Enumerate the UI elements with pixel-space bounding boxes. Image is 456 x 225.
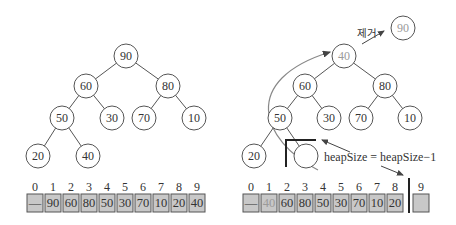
removed-node: 90 <box>391 16 415 40</box>
tree-node-empty <box>294 144 318 168</box>
svg-text:7: 7 <box>158 180 164 194</box>
array-cell: 90 <box>45 194 61 212</box>
right-heap-tree: 제거 90 40 60 80 50 30 70 10 20 <box>242 16 422 170</box>
svg-text:6: 6 <box>140 180 146 194</box>
right-heap-array: 0 1 2 3 4 5 6 7 8 9 — 40 60 80 50 30 70 … <box>243 178 429 213</box>
svg-text:9: 9 <box>418 180 424 194</box>
tree-node-root: 90 <box>114 44 138 68</box>
svg-text:30: 30 <box>119 196 132 210</box>
svg-text:20: 20 <box>389 196 402 210</box>
svg-text:2: 2 <box>284 180 290 194</box>
svg-text:60: 60 <box>281 196 294 210</box>
svg-text:8: 8 <box>176 180 182 194</box>
svg-text:80: 80 <box>299 196 312 210</box>
array-cell: — <box>243 194 259 212</box>
array-cell: 50 <box>99 194 115 212</box>
array-indices: 0 1 2 3 4 5 6 7 8 9 <box>32 180 200 194</box>
tree-node: 80 <box>373 74 397 98</box>
tree-node: 10 <box>182 106 206 130</box>
svg-text:1: 1 <box>50 180 56 194</box>
array-cell: 80 <box>81 194 97 212</box>
svg-text:40: 40 <box>191 196 204 210</box>
array-cell-removed <box>413 194 429 212</box>
tree-node: 30 <box>100 106 124 130</box>
left-heap-tree: 90 60 80 50 30 70 10 20 40 <box>26 44 206 168</box>
svg-text:—: — <box>244 196 258 210</box>
tree-node-root: 40 <box>332 44 356 68</box>
svg-text:3: 3 <box>86 180 92 194</box>
svg-text:90: 90 <box>397 21 409 35</box>
array-cell: — <box>27 194 43 212</box>
svg-text:10: 10 <box>371 196 384 210</box>
svg-text:1: 1 <box>266 180 272 194</box>
tree-node: 20 <box>26 144 50 168</box>
svg-text:40: 40 <box>82 149 94 163</box>
svg-text:6: 6 <box>356 180 362 194</box>
heapsize-annotation: heapSize = heapSize−1 <box>324 150 436 164</box>
svg-text:10: 10 <box>188 111 200 125</box>
tree-node: 70 <box>132 106 156 130</box>
tree-node: 40 <box>76 144 100 168</box>
svg-text:10: 10 <box>404 111 416 125</box>
svg-text:50: 50 <box>317 196 330 210</box>
svg-text:20: 20 <box>248 149 260 163</box>
svg-text:30: 30 <box>335 196 348 210</box>
svg-text:30: 30 <box>106 111 118 125</box>
svg-text:8: 8 <box>392 180 398 194</box>
svg-text:5: 5 <box>122 180 128 194</box>
svg-text:7: 7 <box>374 180 380 194</box>
svg-text:0: 0 <box>248 180 254 194</box>
svg-text:9: 9 <box>194 180 200 194</box>
tree-node: 70 <box>349 106 373 130</box>
array-cell: 20 <box>387 194 403 212</box>
svg-text:80: 80 <box>379 79 391 93</box>
svg-text:10: 10 <box>155 196 168 210</box>
tree-node: 30 <box>317 106 341 130</box>
annotation-arrow-to-divider <box>381 166 403 175</box>
array-cell: 10 <box>369 194 385 212</box>
svg-text:70: 70 <box>355 111 367 125</box>
tree-node: 10 <box>398 106 422 130</box>
array-cell: 70 <box>351 194 367 212</box>
svg-text:60: 60 <box>299 79 311 93</box>
svg-text:5: 5 <box>338 180 344 194</box>
svg-text:50: 50 <box>101 196 114 210</box>
svg-text:70: 70 <box>353 196 366 210</box>
array-cell: 40 <box>261 194 277 212</box>
svg-text:60: 60 <box>65 196 78 210</box>
array-cell: 70 <box>135 194 151 212</box>
tree-node: 80 <box>156 74 180 98</box>
svg-text:50: 50 <box>56 111 68 125</box>
svg-text:40: 40 <box>338 49 350 63</box>
svg-text:20: 20 <box>173 196 186 210</box>
tree-node: 50 <box>268 106 292 130</box>
tree-node: 60 <box>293 74 317 98</box>
svg-text:4: 4 <box>320 180 326 194</box>
array-cell: 20 <box>171 194 187 212</box>
svg-text:90: 90 <box>120 49 132 63</box>
svg-text:40: 40 <box>263 196 276 210</box>
svg-text:80: 80 <box>162 79 174 93</box>
array-cell: 10 <box>153 194 169 212</box>
tree-node: 60 <box>74 74 98 98</box>
svg-text:50: 50 <box>274 111 286 125</box>
array-cell: 50 <box>315 194 331 212</box>
svg-text:70: 70 <box>137 196 150 210</box>
svg-text:3: 3 <box>302 180 308 194</box>
tree-node: 20 <box>242 144 266 168</box>
array-cell: 60 <box>63 194 79 212</box>
array-cell: 30 <box>117 194 133 212</box>
left-heap-array: 0 1 2 3 4 5 6 7 8 9 — 90 60 80 50 30 70 … <box>27 180 205 212</box>
svg-text:30: 30 <box>323 111 335 125</box>
svg-text:4: 4 <box>104 180 110 194</box>
svg-text:—: — <box>28 196 42 210</box>
array-cell: 30 <box>333 194 349 212</box>
svg-text:90: 90 <box>47 196 60 210</box>
svg-text:20: 20 <box>32 149 44 163</box>
tree-node: 50 <box>50 106 74 130</box>
svg-text:0: 0 <box>32 180 38 194</box>
array-cell: 40 <box>189 194 205 212</box>
array-cell: 60 <box>279 194 295 212</box>
svg-text:80: 80 <box>83 196 96 210</box>
array-indices: 0 1 2 3 4 5 6 7 8 9 <box>248 180 424 194</box>
